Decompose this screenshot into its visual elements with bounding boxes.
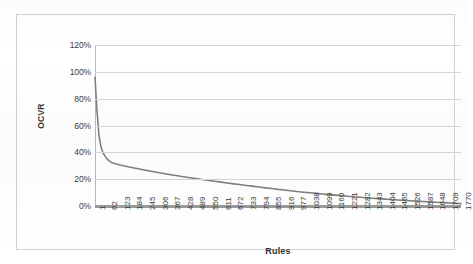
x-axis-tick-label: 733: [250, 166, 258, 210]
x-axis-tick-label: 1465: [401, 166, 409, 210]
x-axis-tick-label: 245: [149, 166, 157, 210]
y-axis-tick-label: 20%: [47, 175, 91, 184]
x-axis-tick-label: 1648: [439, 166, 447, 210]
x-axis-tick-label: 62: [111, 166, 119, 210]
x-axis-tick-label: 1221: [351, 166, 359, 210]
x-axis-tick-label: 1: [99, 166, 107, 210]
x-axis-tick-label: 1770: [465, 166, 473, 210]
x-axis-tick-label: 672: [237, 166, 245, 210]
y-axis-tick-label: 120%: [47, 41, 91, 50]
x-axis-tick-label: 611: [225, 166, 233, 210]
y-axis-tick-label: 60%: [47, 122, 91, 131]
x-axis-tick-label: 1343: [376, 166, 384, 210]
y-axis-tick-label: 0%: [47, 202, 91, 211]
x-axis-tick-label: 550: [212, 166, 220, 210]
x-axis-tick-label: 1160: [338, 166, 346, 210]
gridline: [95, 126, 461, 127]
x-axis-title: Rules: [95, 246, 461, 256]
x-axis-tick-label: 1099: [326, 166, 334, 210]
y-axis-title: OCVR: [36, 86, 46, 146]
gridline: [95, 99, 461, 100]
x-axis-tick-label: 123: [124, 166, 132, 210]
x-axis-tick-label: 489: [199, 166, 207, 210]
x-axis-tick-label: 1404: [389, 166, 397, 210]
gridline: [95, 206, 461, 207]
x-axis-tick-label: 306: [162, 166, 170, 210]
x-axis-tick-label: 184: [136, 166, 144, 210]
x-axis-tick-label: 1587: [427, 166, 435, 210]
x-axis-tick-label: 1282: [364, 166, 372, 210]
x-axis-tick-label: 428: [187, 166, 195, 210]
y-axis-tick-label: 40%: [47, 148, 91, 157]
gridline: [95, 72, 461, 73]
x-axis-tick-label: 1709: [452, 166, 460, 210]
y-axis-tick-label: 100%: [47, 68, 91, 77]
gridline: [95, 152, 461, 153]
y-axis-tick-label: 80%: [47, 95, 91, 104]
x-axis-tick-label: 977: [300, 166, 308, 210]
x-axis-tick-label: 855: [275, 166, 283, 210]
x-axis-tick-label: 1526: [414, 166, 422, 210]
y-axis-tick-labels: 120%100%80%60%40%20%0%: [43, 15, 91, 264]
x-axis-tick-label: 367: [174, 166, 182, 210]
gridline: [95, 179, 461, 180]
gridline: [95, 45, 461, 46]
x-axis-tick-label: 794: [263, 166, 271, 210]
x-axis-tick-label: 916: [288, 166, 296, 210]
x-axis-tick-label: 1038: [313, 166, 321, 210]
chart-frame: 120%100%80%60%40%20%0% OCVR 162123184245…: [16, 14, 455, 250]
